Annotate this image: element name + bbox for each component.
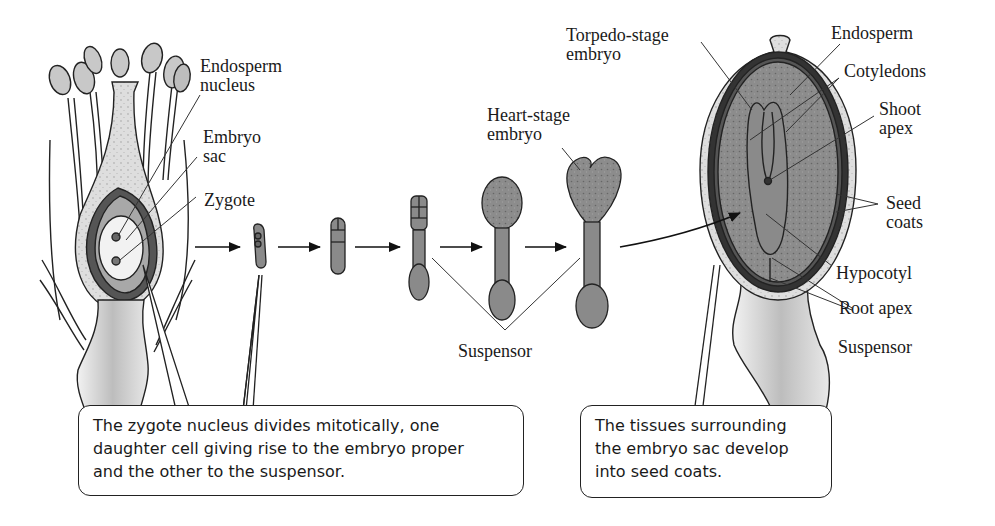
callout-left-line-1: The zygote nucleus divides mitotically, … — [93, 414, 509, 437]
label-heart-stage-embryo: Heart-stage embryo — [487, 106, 570, 144]
label-hypocotyl: Hypocotyl — [836, 264, 912, 283]
callout-left-line-3: and the other to the suspensor. — [93, 460, 509, 483]
label-zygote: Zygote — [204, 191, 255, 210]
label-suspensor-stages: Suspensor — [458, 342, 532, 361]
octant-stage — [409, 196, 429, 300]
callout-seed-coats: The tissues surrounding the embryo sac d… — [580, 405, 832, 498]
zygote-stage — [254, 224, 266, 268]
callout-right-line-2: the embryo sac develop — [595, 437, 817, 460]
callout-right-line-3: into seed coats. — [595, 460, 817, 483]
two-cell-stage — [331, 218, 345, 274]
label-suspensor-seed: Suspensor — [838, 338, 912, 357]
callout-right-line-1: The tissues surrounding — [595, 414, 817, 437]
callout-left-line-2: daughter cell giving rise to the embryo … — [93, 437, 509, 460]
label-cotyledons: Cotyledons — [844, 62, 926, 81]
seed-drawing — [700, 36, 856, 411]
globular-stage — [482, 177, 522, 320]
label-endosperm: Endosperm — [831, 24, 913, 43]
embryo-development-diagram: Endosperm nucleus Embryo sac Zygote Hear… — [0, 0, 995, 526]
callout-tails — [143, 265, 720, 410]
heart-stage — [567, 157, 621, 328]
label-shoot-apex: Shoot apex — [879, 100, 921, 138]
callout-zygote-division: The zygote nucleus divides mitotically, … — [78, 405, 524, 496]
label-seed-coats: Seed coats — [886, 194, 923, 232]
label-endosperm-nucleus: Endosperm nucleus — [200, 57, 282, 95]
label-embryo-sac: Embryo sac — [203, 128, 261, 166]
label-torpedo-stage-embryo: Torpedo-stage embryo — [566, 26, 669, 64]
label-root-apex: Root apex — [839, 299, 913, 318]
